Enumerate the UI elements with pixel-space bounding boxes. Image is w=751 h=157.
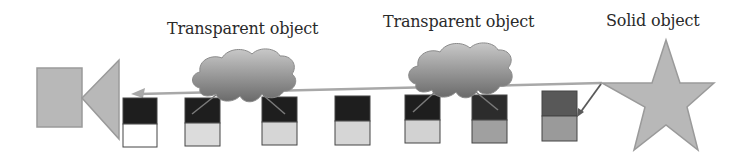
star-icon bbox=[602, 40, 714, 150]
camera-lens bbox=[82, 60, 119, 139]
solid-object-label: Solid object bbox=[606, 11, 699, 30]
transparent-object-label-2: Transparent object bbox=[383, 12, 534, 31]
camera-icon bbox=[37, 60, 119, 139]
sample-box-4 bbox=[335, 96, 370, 145]
transparent-object-label-1: Transparent object bbox=[167, 19, 318, 38]
sample-box-5 bbox=[405, 95, 440, 143]
sample-box-7 bbox=[542, 91, 577, 141]
arrowhead-icon bbox=[131, 88, 145, 98]
sample-box-3 bbox=[262, 97, 297, 145]
camera-body bbox=[37, 68, 82, 127]
sample-box-1 bbox=[123, 98, 157, 147]
reflected-ray bbox=[577, 84, 601, 117]
